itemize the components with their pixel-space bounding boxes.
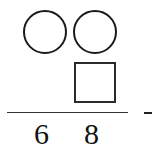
blank-square-ones[interactable]	[74, 62, 116, 103]
minus-operator	[144, 112, 152, 114]
result-digit-ones: 8	[84, 118, 99, 150]
blank-circle-ones[interactable]	[73, 10, 117, 54]
sum-line-divider	[7, 112, 128, 113]
arithmetic-puzzle: 6 8	[0, 0, 159, 152]
blank-circle-tens[interactable]	[23, 10, 67, 54]
result-digit-tens: 6	[34, 118, 49, 150]
